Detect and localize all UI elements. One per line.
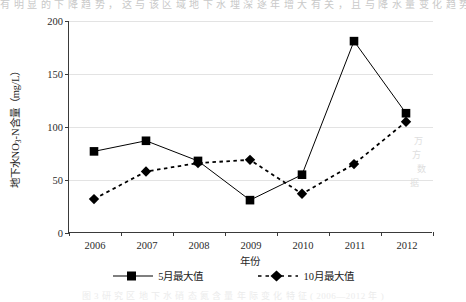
legend-label: 10月最大值: [303, 268, 354, 283]
data-point-square: [298, 170, 307, 179]
series-layer: [0, 10, 466, 292]
data-point-diamond: [349, 159, 359, 169]
chart-figure: 0501001502002006200720082009201020112012…: [0, 10, 466, 292]
data-point-diamond: [401, 117, 411, 127]
legend-entry-october-max: 10月最大值: [257, 268, 354, 283]
legend-marker-diamond-dashed-icon: [257, 270, 299, 282]
data-point-square: [142, 136, 151, 145]
legend-marker-square-solid-icon: [112, 270, 154, 282]
series-line: [94, 41, 406, 200]
series-may-max: [90, 37, 411, 205]
figure-caption-fragment: 图 3 研 究 区 地 下 水 硝 态 氮 含 量 年 际 变 化 特 征 ( …: [0, 291, 466, 302]
page-text-fragment-top: 有 明 显 的 下 降 趋 势 ， 这 与 该 区 域 地 下 水 埋 深 逐 …: [0, 0, 466, 10]
chart-legend: 5月最大值 10月最大值: [0, 268, 466, 283]
series-october-max: [89, 117, 411, 205]
data-point-square: [402, 109, 411, 118]
legend-entry-may-max: 5月最大值: [112, 268, 203, 283]
legend-label: 5月最大值: [158, 268, 203, 283]
data-point-square: [246, 196, 255, 205]
data-point-diamond: [245, 155, 255, 165]
data-point-diamond: [141, 166, 151, 176]
data-point-diamond: [297, 189, 307, 199]
data-point-diamond: [89, 194, 99, 204]
data-point-square: [90, 147, 99, 156]
data-point-square: [350, 37, 359, 46]
